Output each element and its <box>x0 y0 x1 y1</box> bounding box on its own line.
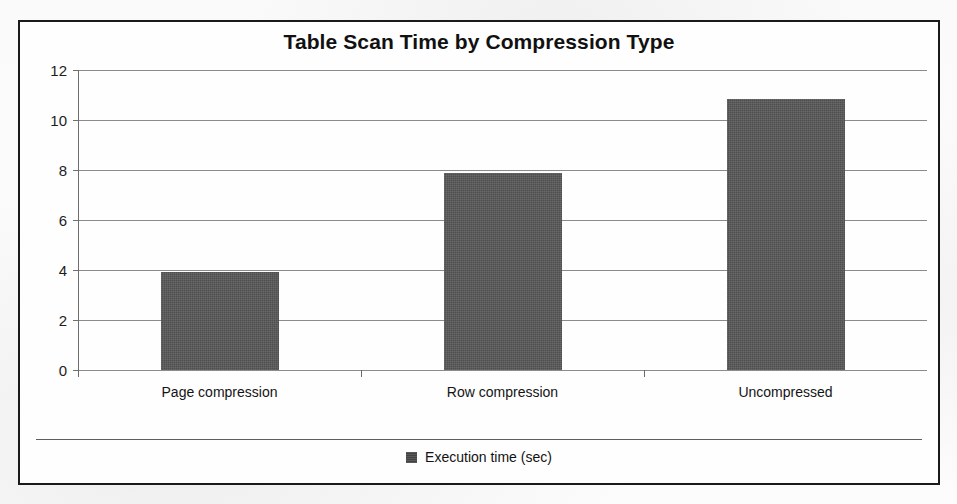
bar <box>444 173 562 370</box>
chart-frame: Table Scan Time by Compression Type 1210… <box>18 20 940 485</box>
x-axis-category-label: Page compression <box>162 384 278 400</box>
x-axis-category-label: Row compression <box>447 384 558 400</box>
x-axis-tick-mark <box>361 370 362 377</box>
y-axis-tick-label: 12 <box>50 62 67 79</box>
square-marker-icon <box>406 452 417 463</box>
y-axis-tick-label: 4 <box>59 262 67 279</box>
legend-separator <box>36 439 922 440</box>
y-axis-tick-label: 2 <box>59 312 67 329</box>
y-axis-tick-label: 0 <box>59 362 67 379</box>
bar <box>727 99 845 370</box>
gridline <box>78 370 927 371</box>
y-axis-tick-label: 10 <box>50 112 67 129</box>
y-axis-tick-mark <box>73 170 79 171</box>
y-axis-tick-mark <box>73 220 79 221</box>
x-axis-category-label: Uncompressed <box>738 384 832 400</box>
y-axis-tick-label: 8 <box>59 162 67 179</box>
y-axis-tick-mark <box>73 320 79 321</box>
x-axis-tick-mark <box>644 370 645 377</box>
bar <box>161 272 279 370</box>
legend-item-label: Execution time (sec) <box>425 449 552 465</box>
gridline <box>78 70 927 71</box>
x-axis-tick-mark <box>78 370 79 377</box>
chart-legend: Execution time (sec) <box>20 449 938 465</box>
y-axis-tick-mark <box>73 70 79 71</box>
y-axis-tick-mark <box>73 120 79 121</box>
y-axis-tick-label: 6 <box>59 212 67 229</box>
chart-title: Table Scan Time by Compression Type <box>20 30 938 54</box>
plot-area: 121086420 Page compressionRow compressio… <box>78 70 927 370</box>
legend-item: Execution time (sec) <box>406 449 552 465</box>
y-axis-tick-mark <box>73 270 79 271</box>
